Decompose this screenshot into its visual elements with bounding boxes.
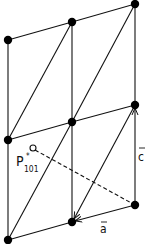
lattice-diagram: P * 101 c a — [0, 0, 147, 244]
point-p-superscript: * — [26, 152, 30, 161]
lattice-point — [68, 218, 76, 226]
lattice-point — [4, 36, 12, 44]
diagonal — [8, 122, 72, 240]
lattice-point — [4, 236, 12, 244]
edge — [72, 4, 135, 22]
lattice-point — [68, 118, 76, 126]
vector-a-arrow — [75, 205, 135, 221]
vector-c-label: c — [138, 150, 144, 164]
point-p-label: P — [16, 153, 24, 169]
lattice-point — [131, 101, 139, 109]
edge — [72, 105, 135, 122]
edge — [8, 22, 72, 40]
vector-a-label: a — [100, 222, 107, 236]
lattice-point — [131, 0, 139, 8]
lattice-point — [4, 136, 12, 144]
lattice-point — [68, 18, 76, 26]
reciprocal-point-marker — [30, 145, 36, 151]
dashed-vector — [35, 150, 135, 205]
edge — [8, 122, 72, 140]
edge — [8, 222, 72, 240]
diagonal — [72, 4, 135, 122]
point-p-subscript: 101 — [24, 164, 39, 174]
diagonal — [8, 22, 72, 140]
diagonal-arrow — [74, 105, 135, 219]
lattice-point — [131, 201, 139, 209]
